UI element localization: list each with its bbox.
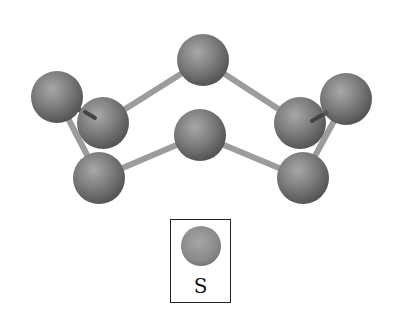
atom-right-front [274,97,326,149]
legend: S [170,219,231,303]
legend-sulfur-atom-icon [171,220,230,270]
atom-bottom-right [277,152,329,204]
atom-bottom-left [73,152,125,204]
atom-left-back [31,71,83,123]
atom-top [177,34,229,86]
atom-left-front [77,97,129,149]
atom-center [174,109,226,161]
atom-right-back [320,73,372,125]
legend-label-sulfur: S [171,274,230,298]
